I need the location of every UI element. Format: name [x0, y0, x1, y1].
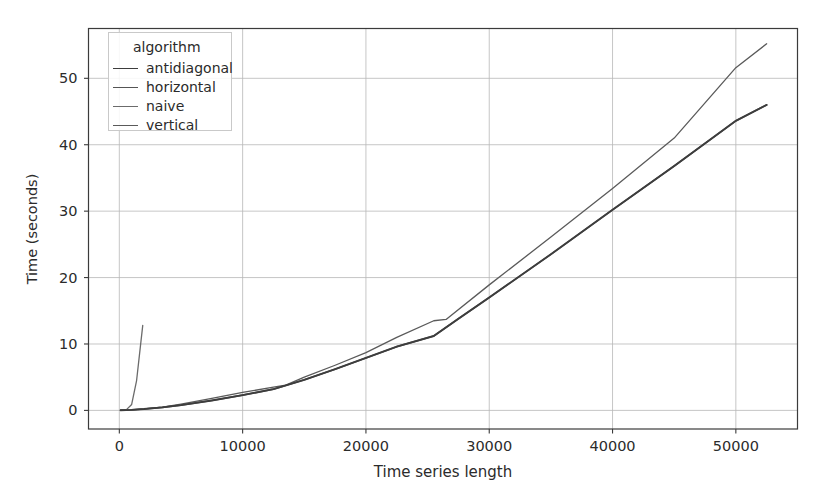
y-tick-label: 30 [59, 203, 77, 219]
legend-title: algorithm [133, 39, 201, 55]
legend-swatch-antidiagonal [113, 68, 138, 69]
legend: algorithm antidiagonalhorizontalnaivever… [108, 32, 232, 131]
y-tick-label: 0 [68, 402, 77, 418]
x-axis-label: Time series length [374, 463, 512, 481]
x-tick-label: 0 [115, 438, 124, 454]
series-line-horizontal [121, 105, 767, 410]
legend-label-vertical: vertical [146, 117, 198, 133]
y-tick-label: 40 [59, 137, 77, 153]
y-tick-label: 10 [59, 336, 77, 352]
series-line-naive [121, 325, 143, 410]
legend-swatch-horizontal [113, 87, 138, 88]
legend-label-naive: naive [146, 98, 184, 114]
y-tick-label: 20 [59, 270, 77, 286]
x-tick-label: 20000 [343, 438, 389, 454]
legend-swatch-naive [113, 106, 138, 107]
y-axis-label: Time (seconds) [24, 173, 40, 284]
legend-swatch-vertical [113, 125, 138, 126]
x-tick-label: 40000 [589, 438, 635, 454]
x-tick-label: 30000 [466, 438, 512, 454]
figure: 01000020000300004000050000 01020304050 T… [0, 0, 836, 489]
series-line-antidiagonal [121, 105, 767, 410]
x-tick-label: 10000 [220, 438, 266, 454]
y-tick-label: 50 [59, 70, 77, 86]
legend-label-antidiagonal: antidiagonal [146, 60, 233, 76]
x-tick-label: 50000 [713, 438, 759, 454]
legend-label-horizontal: horizontal [146, 79, 216, 95]
